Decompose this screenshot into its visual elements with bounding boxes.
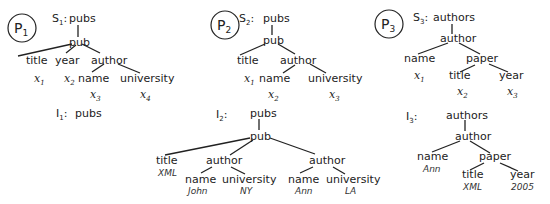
value-label: XML	[462, 182, 482, 192]
tree-node: author	[455, 130, 492, 143]
variable-label: x2	[64, 72, 75, 87]
variable-label: x2	[457, 85, 468, 100]
tree-node: author	[440, 32, 477, 45]
value-label: Ann	[422, 164, 441, 174]
value-label: NY	[240, 186, 254, 196]
tree-node: year	[55, 54, 80, 67]
instance-tree-i2: I2: pubs pub title XML author name John …	[156, 107, 381, 196]
tree-edge	[165, 138, 250, 155]
tree-node: name	[417, 150, 448, 163]
xml-tree-diagram: P1 P2 P3 S1: pubs pub title year author …	[0, 0, 550, 204]
tree-node: name	[78, 72, 109, 85]
schema-tree-s3: S3: authors author name paper title year…	[404, 11, 524, 100]
pattern-label: P2	[217, 17, 231, 35]
tree-node: title	[26, 54, 48, 67]
schema-tree-s2: S2: pubs pub title author name universit…	[237, 12, 363, 103]
variable-label: x3	[329, 88, 340, 103]
tree-node: authors	[433, 11, 475, 24]
instance-tree-i3: I3: authors author name Ann paper title …	[406, 109, 535, 192]
tree-node: pubs	[263, 12, 290, 25]
instance-label: I1:	[56, 107, 67, 122]
instance-tree-i1: I1: pubs	[56, 107, 102, 122]
schema-label: S1:	[52, 12, 67, 27]
pattern-badge-3: P3	[375, 10, 403, 38]
tree-node: author	[206, 154, 243, 167]
tree-node: pubs	[250, 107, 277, 120]
variable-label: x2	[268, 88, 279, 103]
instance-label: I3:	[406, 110, 417, 125]
variable-label: x4	[140, 88, 151, 103]
tree-node: author	[91, 54, 128, 67]
tree-node: name	[185, 173, 216, 186]
tree-node: pub	[263, 34, 284, 47]
value-label: LA	[345, 186, 356, 196]
tree-node: title	[449, 69, 471, 82]
pattern-label: P3	[381, 16, 395, 34]
value-label: John	[186, 186, 208, 196]
tree-node: university	[326, 173, 381, 186]
variable-label: x1	[34, 72, 45, 87]
tree-node: title	[237, 54, 259, 67]
variable-label: x3	[507, 85, 518, 100]
tree-node: name	[259, 72, 290, 85]
variable-label: x3	[90, 88, 101, 103]
value-label: 2005	[511, 182, 534, 192]
tree-node: pub	[250, 130, 271, 143]
schema-label: S3:	[413, 11, 428, 26]
tree-node: title	[462, 168, 484, 181]
pattern-badge-1: P1	[8, 14, 36, 42]
tree-node: university	[222, 173, 277, 186]
value-label: XML	[157, 168, 177, 178]
tree-node: university	[308, 72, 363, 85]
tree-node: title	[156, 154, 178, 167]
schema-label: S2:	[239, 12, 254, 27]
tree-node: pubs	[75, 107, 102, 120]
tree-edge	[270, 138, 315, 154]
schema-tree-s1: S1: pubs pub title year author name univ…	[18, 12, 175, 103]
tree-node: university	[120, 72, 175, 85]
pattern-badge-2: P2	[211, 11, 239, 39]
variable-label: x1	[244, 72, 255, 87]
variable-label: x1	[414, 69, 425, 84]
tree-node: name	[288, 173, 319, 186]
tree-node: name	[404, 52, 435, 65]
tree-node: author	[280, 54, 317, 67]
tree-node: paper	[479, 150, 511, 163]
tree-node: pub	[69, 36, 90, 49]
tree-node: year	[499, 69, 524, 82]
tree-node: pubs	[69, 12, 96, 25]
value-label: Ann	[294, 186, 313, 196]
tree-node: paper	[466, 52, 498, 65]
tree-node: authors	[446, 109, 488, 122]
pattern-label: P1	[14, 20, 28, 38]
tree-node: author	[309, 154, 346, 167]
instance-label: I2:	[216, 108, 227, 123]
tree-node: year	[510, 168, 535, 181]
